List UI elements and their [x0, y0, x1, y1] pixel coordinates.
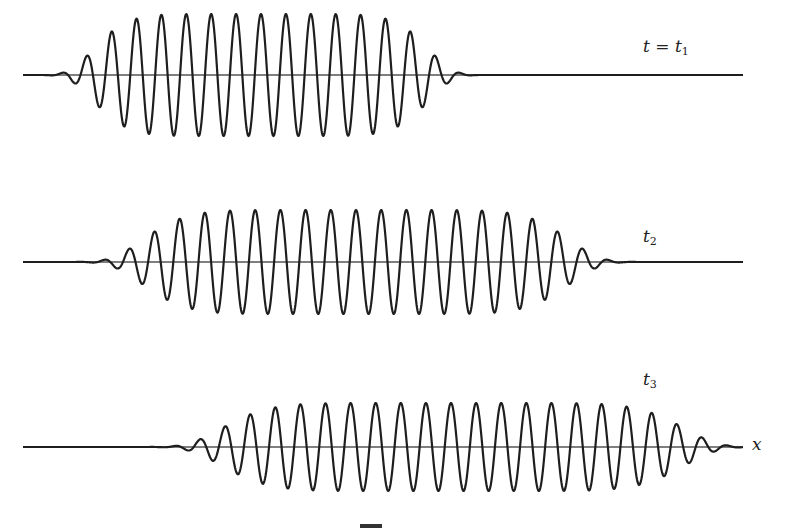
label-t1-main: t = t — [643, 36, 682, 56]
wave-packet-t3 — [23, 403, 743, 491]
wave-packet-t2 — [23, 210, 743, 314]
label-t1: t = t1 — [643, 38, 689, 57]
label-t1-sub: 1 — [682, 45, 689, 58]
label-t3-sub: 3 — [650, 378, 657, 391]
label-t2: t2 — [643, 228, 657, 247]
x-axis-label: x — [752, 436, 762, 453]
wave-packet-figure — [0, 0, 796, 528]
cropped-caption-fragment — [360, 524, 382, 528]
label-t3-main: t — [643, 369, 650, 389]
label-t2-main: t — [643, 226, 650, 246]
label-t3: t3 — [643, 371, 657, 390]
wave-packet-t1 — [23, 14, 743, 136]
label-t2-sub: 2 — [650, 235, 657, 248]
